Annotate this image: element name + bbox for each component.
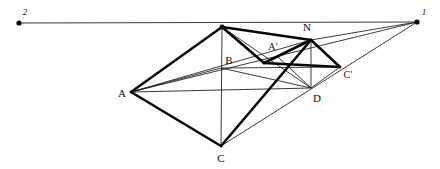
line-N-VP1 bbox=[311, 22, 417, 40]
thin-lines-group bbox=[19, 22, 417, 146]
label-point-c: C bbox=[217, 153, 225, 164]
dot-apex[interactable] bbox=[220, 25, 225, 30]
label-point-n: N bbox=[303, 22, 311, 33]
edge-Ap-Cp bbox=[264, 63, 340, 67]
label-point-a: A bbox=[118, 88, 126, 99]
vertex-dots-group bbox=[16, 19, 419, 29]
line-C-VP1 bbox=[221, 22, 417, 146]
geometry-diagram: 2 1 A B C D N A' C' bbox=[0, 0, 440, 169]
line-B-A bbox=[131, 68, 221, 92]
label-point-a-prime: A' bbox=[268, 42, 277, 52]
line-A-D bbox=[131, 88, 311, 92]
line-T-C bbox=[221, 27, 222, 146]
label-point-c-prime: C' bbox=[344, 70, 353, 80]
label-vanishing-point-1: 1 bbox=[422, 8, 427, 17]
line-horizon bbox=[19, 22, 417, 23]
label-vanishing-point-2: 2 bbox=[23, 8, 28, 17]
dot-vp1[interactable] bbox=[414, 19, 419, 24]
dot-vp2[interactable] bbox=[16, 20, 21, 25]
edge-A-C bbox=[131, 92, 221, 146]
edge-N-D bbox=[221, 40, 311, 146]
line-A-N bbox=[131, 40, 311, 92]
label-point-d: D bbox=[313, 93, 321, 104]
line-D-Cp bbox=[311, 67, 340, 88]
line-B-D bbox=[221, 68, 311, 88]
label-point-b: B bbox=[225, 55, 233, 66]
diagram-canvas bbox=[0, 0, 440, 169]
edge-A-T bbox=[131, 27, 222, 92]
